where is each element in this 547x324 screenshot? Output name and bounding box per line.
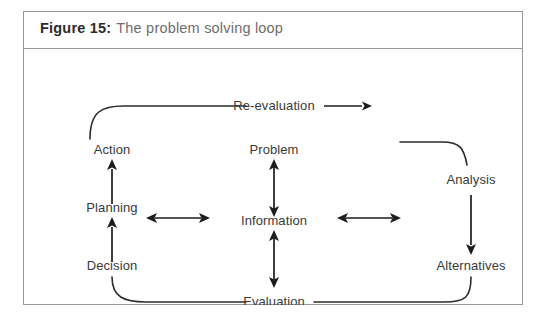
problem-solving-loop-diagram: Re-evaluation Action Planning Decision P… [24, 49, 524, 305]
connector-evaluation-to-alternatives [314, 277, 471, 302]
figure-caption-label: Figure 15: [40, 20, 111, 36]
node-label-action: Action [94, 142, 131, 157]
figure-frame: Figure 15:The problem solving loop [23, 11, 523, 305]
node-label-planning: Planning [86, 200, 137, 215]
node-label-problem: Problem [249, 142, 298, 157]
node-label-evaluation: Evaluation [243, 294, 305, 305]
figure-caption: Figure 15:The problem solving loop [40, 20, 283, 36]
diagram-surface: Re-evaluation Action Planning Decision P… [24, 49, 524, 305]
connector-reevaluation-arrowhead [362, 102, 372, 111]
node-label-reevaluation: Re-evaluation [233, 98, 315, 113]
node-label-alternatives: Alternatives [436, 258, 506, 273]
connector-planning-to-action-arrowhead [107, 159, 117, 170]
connector-top-right-curve [400, 142, 467, 165]
node-label-decision: Decision [87, 258, 138, 273]
figure-container: Figure 15:The problem solving loop [0, 0, 547, 324]
node-label-information: Information [241, 213, 307, 228]
connector-decision-to-evaluation [112, 277, 246, 302]
figure-caption-band: Figure 15:The problem solving loop [24, 12, 522, 49]
connector-decision-to-planning-arrowhead [107, 217, 117, 228]
connector-analysis-to-alternatives-arrowhead [466, 244, 476, 255]
node-label-analysis: Analysis [446, 172, 496, 187]
connector-action-to-reevaluation [90, 106, 246, 139]
figure-caption-title: The problem solving loop [116, 20, 283, 36]
